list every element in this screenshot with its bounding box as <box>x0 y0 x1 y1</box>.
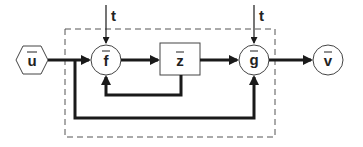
node-z: z <box>160 43 200 75</box>
block-diagram: u t f z t g v <box>0 0 363 147</box>
input-node-u: u <box>16 46 48 74</box>
output-node-v: v <box>313 45 343 75</box>
output-label: v <box>324 52 333 69</box>
node-f: f <box>91 45 121 75</box>
z-label: z <box>176 52 184 69</box>
time-label-f: t <box>111 7 116 24</box>
g-label: g <box>249 51 258 68</box>
node-g: g <box>239 45 269 75</box>
edge-feedback-z-to-f <box>106 75 181 95</box>
input-label: u <box>27 52 36 69</box>
time-label-g: t <box>259 7 264 24</box>
